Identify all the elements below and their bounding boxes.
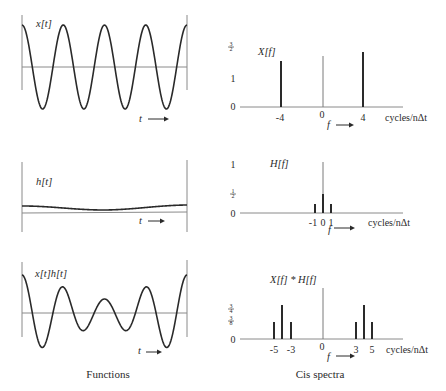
ytick-0: 0	[231, 101, 236, 112]
xh-t-label: x[t]h[t]	[34, 268, 67, 279]
ytick-0: 0	[231, 208, 236, 219]
xtick-3: 3	[354, 344, 359, 355]
h-t-label: h[t]	[36, 176, 52, 187]
x-t-label: x[t]	[35, 18, 52, 29]
t-axis-label: t	[139, 113, 143, 124]
panel-H-f: 1 12 0 H[f] -1 0 1 f cycles/nΔt	[230, 158, 410, 235]
ytick-three-halves: 32	[230, 41, 233, 52]
unit-label: cycles/nΔt	[385, 112, 427, 123]
X-f-label: X[f]	[257, 46, 276, 57]
ytick-three-eighths: 38	[230, 315, 233, 326]
f-axis-label: f	[327, 351, 332, 362]
XH-f-label: X[f] * H[f]	[269, 274, 317, 285]
xtick-neg3: -3	[287, 344, 295, 355]
xh-t-curve	[22, 275, 187, 348]
unit-label: cycles/nΔt	[386, 344, 428, 355]
t-axis-label: t	[138, 345, 142, 356]
zero-line	[22, 212, 187, 213]
xtick-0: 0	[321, 217, 326, 228]
ytick-0: 0	[231, 334, 236, 345]
t-arrowhead-icon	[160, 219, 165, 224]
xtick-neg4: -4	[276, 112, 284, 123]
xtick-5: 5	[370, 344, 375, 355]
ytick-1: 1	[231, 159, 236, 170]
figure-canvas: x[t] t h[t] t x[t]h[t] t Functions 32	[0, 0, 446, 391]
xtick-neg5: -5	[270, 344, 278, 355]
f-arrowhead-icon	[350, 226, 355, 231]
ytick-three-quarters: 34	[230, 303, 233, 314]
f-arrowhead-icon	[349, 123, 354, 128]
t-arrowhead-icon	[164, 117, 169, 122]
t-arrowhead-icon	[157, 350, 162, 355]
f-axis-label: f	[327, 119, 332, 130]
panel-x-t: x[t] t	[22, 15, 187, 124]
h-t-curve	[22, 205, 187, 210]
ytick-half: 12	[232, 188, 235, 199]
unit-label: cycles/nΔt	[368, 217, 410, 228]
t-axis-label: t	[139, 215, 143, 226]
panel-X-f: 32 1 0 X[f] -4 0 4 f cycles/nΔt	[228, 41, 427, 130]
xtick-0: 0	[320, 109, 325, 120]
panel-h-t: h[t] t	[22, 160, 187, 232]
panel-xh-t: x[t]h[t] t Functions	[22, 260, 187, 380]
caption-functions: Functions	[86, 368, 129, 380]
panel-XH-f: 34 38 0 X[f] * H[f] -5 -3 0 3 5 f cycles…	[228, 274, 428, 380]
xtick-4: 4	[361, 112, 366, 123]
H-f-label: H[f]	[269, 158, 289, 169]
ytick-1: 1	[231, 73, 236, 84]
caption-spectra: Cis spectra	[296, 368, 345, 380]
xtick-0: 0	[320, 341, 325, 352]
xtick-neg1: -1	[309, 217, 317, 228]
